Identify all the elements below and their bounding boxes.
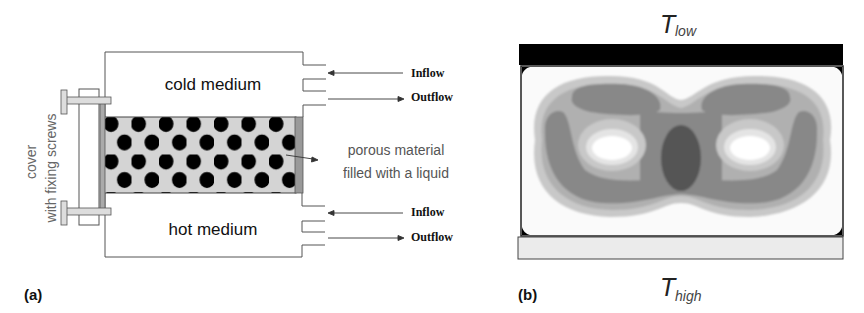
arrowhead-icon [312, 157, 319, 162]
cover-label-line2: with fixing screws [43, 114, 59, 224]
t-low-subscript: low [675, 23, 697, 39]
porous-material [104, 117, 296, 193]
porous-side-wall [295, 117, 303, 193]
screw-top-shaft [66, 97, 111, 104]
bottom-inflow-label: Inflow [411, 205, 445, 219]
top-inflow-label: Inflow [411, 66, 445, 80]
cover-plate [100, 101, 105, 211]
panel-b-temperature-field: T low T high (b) [518, 10, 843, 304]
arrowhead-icon [398, 236, 404, 241]
cover-label-line1: cover [23, 145, 39, 180]
top-outflow-label: Outflow [411, 90, 453, 104]
bottom-outflow-label: Outflow [411, 230, 453, 244]
porous-label-line1: porous material [348, 142, 445, 158]
cover [79, 89, 99, 225]
panel-b-label: (b) [518, 286, 537, 303]
panel-a-label: (a) [24, 286, 42, 303]
screw-bottom-head [61, 201, 67, 225]
screw-top-head [61, 90, 67, 114]
screw-bottom-shaft [66, 208, 111, 215]
arrowhead-icon [328, 71, 334, 76]
hot-plate [518, 237, 843, 259]
arrowhead-icon [328, 211, 334, 216]
panel-a-diagram: cold medium hot medium porous material f… [23, 52, 453, 303]
porous-label-line2: filled with a liquid [343, 165, 449, 181]
cold-medium-label: cold medium [165, 75, 261, 94]
hot-medium-label: hot medium [169, 220, 258, 239]
t-high-subscript: high [675, 288, 702, 304]
cold-plate [519, 44, 843, 65]
figure-canvas: cold medium hot medium porous material f… [0, 0, 864, 313]
arrowhead-icon [398, 97, 404, 102]
